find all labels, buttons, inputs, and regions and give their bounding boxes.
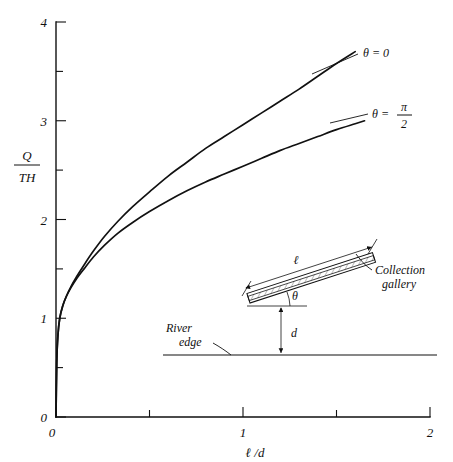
curve-label-theta-zero: θ = 0 (312, 46, 389, 74)
y-tick-label: 3 (40, 114, 48, 129)
theta-label: θ (292, 289, 298, 303)
depth-dimension: d (281, 308, 298, 353)
figure-root: 4 3 2 1 0 0 1 2 Q TH ℓ /d (0, 0, 453, 462)
data-curves (56, 52, 365, 417)
y-axis-title-numerator: Q (22, 148, 32, 163)
x-axis-tick-labels: 0 1 2 (49, 425, 434, 440)
y-axis-tick-labels: 4 3 2 1 0 (40, 15, 48, 425)
x-tick-label: 0 (49, 425, 56, 440)
curve-label-pi-numerator: π (401, 100, 408, 114)
river-edge-label-line2: edge (179, 335, 202, 349)
length-label: ℓ (294, 253, 299, 267)
gallery-hatched-core (248, 256, 375, 301)
collection-gallery-label-line1: Collection (375, 263, 425, 277)
y-tick-label: 2 (41, 213, 48, 228)
depth-label: d (291, 326, 298, 340)
y-axis-title: Q TH (14, 148, 40, 185)
axes: 4 3 2 1 0 0 1 2 Q TH ℓ /d (14, 15, 434, 460)
curve-label-theta-zero-text: θ = 0 (363, 46, 389, 60)
angle-theta: θ (287, 289, 298, 306)
curve-label-pi-denominator: 2 (401, 117, 407, 131)
river-edge-leader (213, 343, 231, 355)
curve-theta-zero (56, 52, 355, 417)
y-axis-title-denominator: TH (19, 170, 36, 185)
curve-label-theta-pi-text: θ = (372, 107, 389, 121)
y-tick-label: 4 (41, 15, 48, 30)
theta-arc (287, 292, 290, 306)
river-edge-label-line1: River (165, 321, 192, 335)
y-tick-label: 0 (41, 410, 48, 425)
river-edge-callout: River edge (165, 321, 231, 355)
x-axis-title: ℓ /d (246, 445, 265, 460)
y-tick-label: 1 (41, 311, 48, 326)
chart-canvas: 4 3 2 1 0 0 1 2 Q TH ℓ /d (0, 0, 453, 462)
x-tick-label: 2 (427, 425, 434, 440)
curve-theta-pi-over-two (56, 121, 365, 417)
axis-lines (56, 22, 430, 417)
x-axis-major-ticks (56, 407, 430, 417)
curve-label-leader (312, 54, 358, 74)
x-tick-label: 1 (240, 425, 247, 440)
collection-gallery-bar (247, 253, 376, 303)
inset-collection-gallery-diagram: ℓ θ d Collection gallery River (163, 239, 437, 355)
x-axis-title-label: ℓ /d (246, 445, 265, 460)
curve-label-theta-pi-over-two: θ = π 2 (330, 100, 412, 131)
length-extension-right (368, 239, 377, 254)
collection-gallery-label-line2: gallery (382, 277, 417, 291)
